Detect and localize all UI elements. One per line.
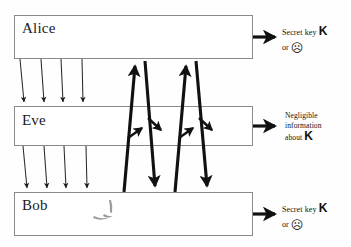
sad-face-icon: ☹ [291,218,304,232]
eve-label: Eve [22,112,46,129]
alice-key-symbol: K [319,24,328,38]
eve-key-symbol: K [304,129,313,143]
bob-box [15,193,253,236]
bob-outcome-line2: or ☹ [282,218,327,231]
eve-outcome: Negligible information about K [285,111,322,143]
eve-box [15,107,253,146]
alice-outcome: Secret key K or ☹ [282,26,327,54]
alice-outcome-line1: Secret key K [282,26,327,38]
bob-outcome: Secret key K or ☹ [282,203,327,231]
bob-label: Bob [22,197,48,214]
output-arrows [253,37,275,214]
alice-label: Alice [22,20,55,37]
alice-to-eve-arrows [20,59,83,102]
eve-outcome-line1: Negligible [285,111,322,121]
alice-outcome-line2: or ☹ [282,41,327,54]
sad-face-icon: ☹ [291,41,304,55]
diagram-canvas: Alice Eve Bob Secret key K or ☹ Negligib… [0,0,351,247]
bob-outcome-line1: Secret key K [282,203,327,215]
eve-to-bob-arrows [23,146,87,188]
bob-key-symbol: K [319,201,328,215]
eve-outcome-line3: about K [285,131,322,143]
